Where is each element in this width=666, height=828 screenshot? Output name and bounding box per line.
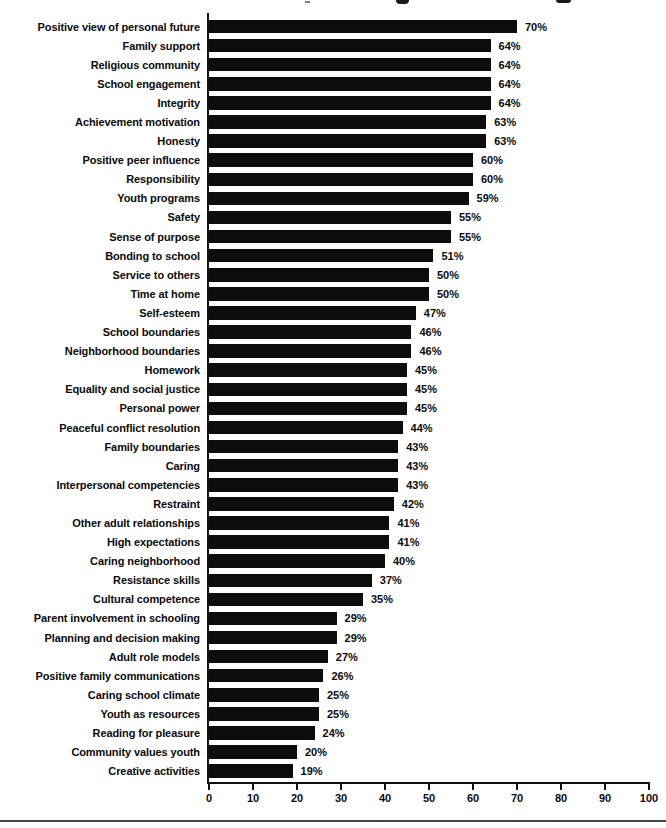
category-label: Caring [0, 460, 200, 472]
category-label: Achievement motivation [0, 116, 200, 128]
bar-row: School boundaries46% [0, 323, 666, 342]
x-axis-tick-label: 0 [206, 792, 212, 804]
bar [209, 383, 407, 397]
category-label: Planning and decision making [0, 632, 200, 644]
bar-row: Parent involvement in schooling29% [0, 609, 666, 628]
value-label: 64% [499, 59, 521, 71]
bar-row: Resistance skills37% [0, 571, 666, 590]
bar [209, 249, 433, 263]
bar-row: Reading for pleasure24% [0, 723, 666, 742]
category-label: Caring school climate [0, 689, 200, 701]
bar [209, 115, 486, 129]
bar-row: Sense of purpose55% [0, 227, 666, 246]
x-axis-tick [516, 782, 518, 790]
value-label: 43% [406, 479, 428, 491]
category-label: Family boundaries [0, 441, 200, 453]
bar [209, 173, 473, 187]
category-label: Time at home [0, 288, 200, 300]
bar-row: Peaceful conflict resolution44% [0, 418, 666, 437]
bar [209, 688, 319, 702]
category-label: Youth as resources [0, 708, 200, 720]
category-label: Caring neighborhood [0, 555, 200, 567]
category-label: Creative activities [0, 765, 200, 777]
x-axis-tick-label: 90 [599, 792, 611, 804]
value-label: 41% [397, 536, 419, 548]
bar [209, 497, 394, 511]
category-label: Positive family communications [0, 670, 200, 682]
value-label: 46% [419, 326, 441, 338]
bar [209, 363, 407, 377]
x-axis-tick [296, 782, 298, 790]
value-label: 20% [305, 746, 327, 758]
x-axis-tick-label: 20 [291, 792, 303, 804]
bar [209, 230, 451, 244]
y-axis-line [207, 13, 209, 783]
bar [209, 287, 429, 301]
bar-row: Achievement motivation63% [0, 112, 666, 131]
category-label: Restraint [0, 498, 200, 510]
bar [209, 325, 411, 339]
x-axis-tick [604, 782, 606, 790]
value-label: 59% [477, 192, 499, 204]
value-label: 41% [397, 517, 419, 529]
value-label: 45% [415, 364, 437, 376]
bar [209, 58, 491, 72]
value-label: 25% [327, 708, 349, 720]
bar-row: Time at home50% [0, 284, 666, 303]
category-label: Bonding to school [0, 250, 200, 262]
bar-row: School engagement64% [0, 74, 666, 93]
bar-row: Caring school climate25% [0, 685, 666, 704]
bar-row: Interpersonal competencies43% [0, 475, 666, 494]
value-label: 43% [406, 441, 428, 453]
bar-row: Community values youth20% [0, 743, 666, 762]
bar-row: High expectations41% [0, 533, 666, 552]
value-label: 25% [327, 689, 349, 701]
bar [209, 402, 407, 416]
bar [209, 192, 469, 206]
x-axis-tick [648, 782, 650, 790]
bar-row: Creative activities19% [0, 762, 666, 781]
value-label: 64% [499, 40, 521, 52]
category-label: Honesty [0, 135, 200, 147]
x-axis-tick-label: 50 [423, 792, 435, 804]
bar-row: Caring43% [0, 456, 666, 475]
bar-row: Positive peer influence60% [0, 151, 666, 170]
bar [209, 593, 363, 607]
bar [209, 20, 517, 34]
bar-row: Positive family communications26% [0, 666, 666, 685]
value-label: 26% [331, 670, 353, 682]
bar [209, 612, 337, 626]
category-label: High expectations [0, 536, 200, 548]
x-axis-tick [560, 782, 562, 790]
category-label: School boundaries [0, 326, 200, 338]
value-label: 40% [393, 555, 415, 567]
value-label: 24% [323, 727, 345, 739]
value-label: 44% [411, 422, 433, 434]
value-label: 37% [380, 574, 402, 586]
bar-row: Self-esteem47% [0, 303, 666, 322]
value-label: 46% [419, 345, 441, 357]
bar [209, 478, 398, 492]
bar-row: Positive view of personal future70% [0, 17, 666, 36]
bar-row: Equality and social justice45% [0, 380, 666, 399]
bar [209, 440, 398, 454]
value-label: 60% [481, 154, 503, 166]
value-label: 43% [406, 460, 428, 472]
bar [209, 344, 411, 358]
value-label: 51% [441, 250, 463, 262]
category-label: Self-esteem [0, 307, 200, 319]
category-label: Service to others [0, 269, 200, 281]
bar [209, 726, 315, 740]
bar [209, 211, 451, 225]
bar-row: Family support64% [0, 36, 666, 55]
value-label: 55% [459, 211, 481, 223]
bar-row: Youth programs59% [0, 189, 666, 208]
bar-row: Responsibility60% [0, 170, 666, 189]
bar-row: Other adult relationships41% [0, 513, 666, 532]
bar [209, 306, 416, 320]
category-label: Religious community [0, 59, 200, 71]
bar-chart: Positive view of personal future70%Famil… [0, 0, 666, 828]
bar-row: Bonding to school51% [0, 246, 666, 265]
value-label: 50% [437, 269, 459, 281]
x-axis-tick [384, 782, 386, 790]
